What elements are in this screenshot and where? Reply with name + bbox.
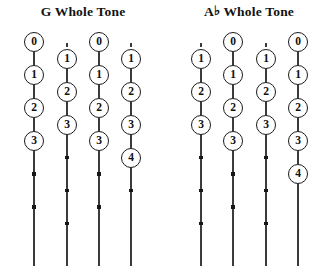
- fret-marker: 4: [121, 148, 141, 168]
- string-top-stub: [66, 43, 68, 47]
- string-segment: [98, 85, 100, 98]
- fret-dot: [231, 205, 234, 208]
- fret-marker: 2: [191, 82, 211, 102]
- string-segment: [66, 135, 68, 158]
- fret-marker: 3: [89, 131, 109, 151]
- fret-marker: 3: [223, 131, 243, 151]
- string-tail: [232, 207, 234, 266]
- fret-dot: [199, 156, 202, 159]
- fret-marker: 3: [121, 115, 141, 135]
- string-tail: [33, 207, 35, 266]
- fret-marker: 1: [121, 49, 141, 69]
- string-segment: [33, 151, 35, 174]
- string-segment: [232, 85, 234, 98]
- string-tail: [265, 224, 267, 267]
- fret-dot: [264, 189, 267, 192]
- string-segment: [265, 69, 267, 82]
- string-top-stub: [200, 43, 202, 47]
- whole-tone-scale-diagram: G Whole Tone012312301231234A♭ Whole Tone…: [0, 0, 332, 276]
- string-segment: [232, 151, 234, 174]
- string-segment: [265, 135, 267, 158]
- fret-marker: 3: [191, 115, 211, 135]
- fret-marker: 4: [288, 164, 308, 184]
- string-segment: [33, 85, 35, 98]
- fret-marker: 2: [256, 82, 276, 102]
- fret-dot: [264, 222, 267, 225]
- fret-marker: 3: [57, 115, 77, 135]
- fret-dot: [199, 222, 202, 225]
- string-segment: [297, 151, 299, 164]
- fret-marker: 3: [256, 115, 276, 135]
- string-segment: [297, 118, 299, 131]
- string-tail: [200, 224, 202, 267]
- fret-marker: 2: [223, 98, 243, 118]
- fret-marker: 2: [89, 98, 109, 118]
- fret-dot: [129, 189, 132, 192]
- string-segment: [265, 191, 267, 224]
- string-segment: [66, 158, 68, 191]
- string-segment: [130, 102, 132, 115]
- fret-marker: 1: [256, 49, 276, 69]
- string-tail: [66, 224, 68, 267]
- fret-marker: 2: [24, 98, 44, 118]
- string-segment: [130, 168, 132, 191]
- string-segment: [33, 52, 35, 65]
- string-segment: [232, 118, 234, 131]
- scale-group-ab-whole-tone: A♭ Whole Tone123012312301234: [166, 0, 332, 276]
- fret-marker: 1: [191, 49, 211, 69]
- fret-marker: 3: [288, 131, 308, 151]
- fret-dot: [65, 222, 68, 225]
- string-tail: [130, 191, 132, 267]
- string-column-container: 123012312301234: [166, 0, 332, 276]
- fret-dot: [199, 189, 202, 192]
- string-segment: [200, 158, 202, 191]
- fret-marker: 1: [57, 49, 77, 69]
- fret-dot: [65, 156, 68, 159]
- string-segment: [98, 174, 100, 207]
- fret-marker: 1: [288, 65, 308, 85]
- fret-marker: 0: [24, 32, 44, 52]
- fret-marker: 2: [288, 98, 308, 118]
- string-segment: [200, 135, 202, 158]
- string-column-container: 012312301231234: [0, 0, 166, 276]
- fret-marker: 1: [89, 65, 109, 85]
- fret-marker: 3: [24, 131, 44, 151]
- fret-marker: 0: [89, 32, 109, 52]
- string-segment: [98, 151, 100, 174]
- string-segment: [265, 158, 267, 191]
- string-segment: [66, 69, 68, 82]
- string-segment: [98, 52, 100, 65]
- string-top-stub: [130, 43, 132, 47]
- string-segment: [297, 85, 299, 98]
- fret-marker: 2: [121, 82, 141, 102]
- string-segment: [232, 174, 234, 207]
- fret-marker: 1: [223, 65, 243, 85]
- fret-dot: [231, 172, 234, 175]
- fret-dot: [97, 205, 100, 208]
- fret-marker: 0: [288, 32, 308, 52]
- scale-group-g-whole-tone: G Whole Tone012312301231234: [0, 0, 166, 276]
- fret-dot: [65, 189, 68, 192]
- string-segment: [66, 191, 68, 224]
- string-segment: [200, 69, 202, 82]
- string-segment: [33, 174, 35, 207]
- string-tail: [297, 184, 299, 266]
- string-segment: [297, 52, 299, 65]
- string-tail: [98, 207, 100, 266]
- string-segment: [200, 102, 202, 115]
- fret-dot: [264, 156, 267, 159]
- string-segment: [232, 52, 234, 65]
- string-segment: [130, 69, 132, 82]
- fret-marker: 2: [57, 82, 77, 102]
- fret-dot: [32, 172, 35, 175]
- string-segment: [98, 118, 100, 131]
- string-segment: [66, 102, 68, 115]
- fret-marker: 1: [24, 65, 44, 85]
- fret-marker: 0: [223, 32, 243, 52]
- string-segment: [130, 135, 132, 148]
- fret-dot: [97, 172, 100, 175]
- string-top-stub: [265, 43, 267, 47]
- string-segment: [265, 102, 267, 115]
- string-segment: [33, 118, 35, 131]
- string-segment: [200, 191, 202, 224]
